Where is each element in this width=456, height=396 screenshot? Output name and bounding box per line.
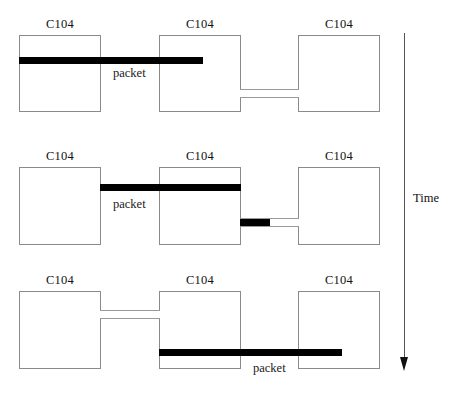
node-label-row2-node1: C104 — [19, 150, 101, 163]
node-box-row1-node1 — [19, 35, 101, 112]
node-label-row3-node2: C104 — [159, 274, 241, 287]
node-box-row2-node3 — [298, 167, 380, 245]
node-box-row2-node2 — [159, 167, 241, 245]
packet-bar-row2-on-link — [240, 219, 270, 226]
packet-bar-row3 — [159, 349, 342, 356]
link-cable-row3-node1-node2 — [100, 310, 160, 319]
packet-timeline-diagram: C104 C104 C104 packet C104 C104 C104 pac… — [0, 0, 456, 396]
node-label-row2-node2: C104 — [159, 150, 241, 163]
node-label-row1-node3: C104 — [298, 18, 380, 31]
packet-bar-row1 — [19, 57, 203, 64]
packet-label-row1: packet — [113, 67, 146, 80]
node-box-row3-node3 — [298, 291, 380, 369]
time-axis-arrow-shaft — [404, 33, 405, 359]
node-box-row1-node2 — [159, 35, 241, 112]
packet-bar-row2 — [100, 184, 241, 191]
node-label-row1-node2: C104 — [159, 18, 241, 31]
node-box-row1-node3 — [298, 35, 380, 112]
packet-label-row3: packet — [253, 362, 286, 375]
node-label-row1-node1: C104 — [19, 18, 101, 31]
node-label-row3-node1: C104 — [19, 274, 101, 287]
node-box-row3-node2 — [159, 291, 241, 369]
time-axis-label: Time — [413, 192, 439, 205]
time-axis-arrow-head-icon — [400, 357, 408, 371]
node-label-row2-node3: C104 — [298, 150, 380, 163]
link-cable-row1-node2-node3 — [240, 89, 299, 98]
node-box-row2-node1 — [19, 167, 101, 245]
node-label-row3-node3: C104 — [298, 274, 380, 287]
node-box-row3-node1 — [19, 291, 101, 369]
packet-label-row2: packet — [113, 198, 146, 211]
